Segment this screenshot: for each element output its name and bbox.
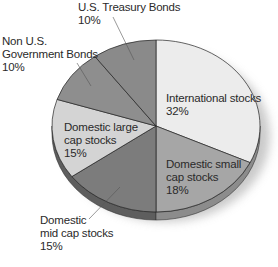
label-value: 32% <box>166 105 188 117</box>
label-text: cap stocks <box>166 171 218 183</box>
label-value: 15% <box>40 240 62 252</box>
label-non-us: Non U.S.Government Bonds10% <box>2 35 98 74</box>
label-value: 10% <box>78 14 100 26</box>
label-text: Domestic large <box>64 121 138 133</box>
label-value: 10% <box>2 61 24 73</box>
label-text: cap stocks <box>64 134 116 146</box>
label-text: Non U.S. <box>2 35 47 47</box>
label-text: International stocks <box>166 92 261 104</box>
label-small-cap: Domestic smallcap stocks18% <box>166 158 241 197</box>
label-text: Government Bonds <box>2 48 98 60</box>
label-mid-cap: Domesticmid cap stocks15% <box>40 214 113 253</box>
label-text: Domestic <box>40 214 86 226</box>
label-text: U.S. Treasury Bonds <box>78 1 180 13</box>
label-value: 18% <box>166 184 188 196</box>
label-text: Domestic small <box>166 158 241 170</box>
label-treasury: U.S. Treasury Bonds10% <box>78 1 180 27</box>
label-text: mid cap stocks <box>40 227 113 239</box>
label-large-cap: Domestic largecap stocks15% <box>64 121 138 160</box>
label-value: 15% <box>64 147 86 159</box>
label-international: International stocks32% <box>166 92 261 118</box>
